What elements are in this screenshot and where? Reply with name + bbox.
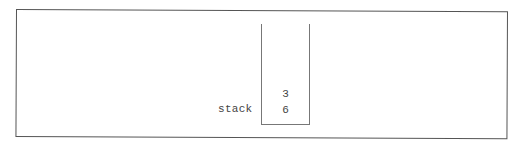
stack-item-top: 3 [282, 86, 289, 102]
stack-item-bottom: 6 [282, 102, 289, 118]
stack-items: 3 6 [262, 86, 309, 118]
stack-container: 3 6 [261, 24, 310, 125]
stack-label: stack [218, 103, 253, 115]
